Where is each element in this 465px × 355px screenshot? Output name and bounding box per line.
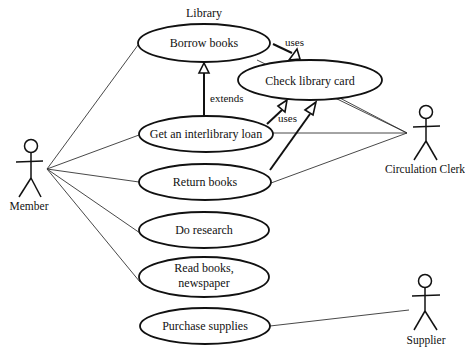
use-case-label: Purchase supplies: [162, 319, 248, 333]
use-case-label-line-1: Read books,: [174, 261, 233, 275]
use-case-check-library-card[interactable]: Check library card: [238, 60, 382, 100]
uses-label-1: uses: [285, 36, 304, 48]
use-case-label: Get an interlibrary loan: [150, 127, 262, 141]
use-case-label: Do research: [175, 223, 233, 237]
use-case-do-research[interactable]: Do research: [139, 212, 269, 248]
actor-label: Member: [10, 200, 49, 212]
use-case-return-books[interactable]: Return books: [139, 164, 271, 200]
use-case-purchase-supplies[interactable]: Purchase supplies: [140, 308, 270, 344]
use-case-borrow-books[interactable]: Borrow books: [138, 24, 270, 62]
actor-circulation-clerk[interactable]: Circulation Clerk: [385, 106, 465, 176]
stick-figure-icon: [412, 275, 440, 331]
stick-figure-icon: [16, 140, 43, 198]
use-case-diagram: Library uses uses extends: [0, 0, 465, 355]
stick-figure-icon: [413, 106, 440, 161]
use-case-read-books[interactable]: Read books, newspaper: [139, 257, 269, 297]
use-case-interlibrary-loan[interactable]: Get an interlibrary loan: [139, 116, 273, 152]
diagram-title: Library: [186, 6, 222, 20]
actor-label: Circulation Clerk: [385, 163, 465, 175]
extends-label: extends: [210, 92, 244, 104]
supplier-association: [270, 310, 409, 326]
member-associations: [47, 45, 140, 282]
actor-member[interactable]: Member: [10, 140, 49, 213]
use-case-label: Borrow books: [170, 36, 239, 50]
use-case-label: Check library card: [265, 74, 354, 88]
extends-dependency: [199, 63, 209, 118]
use-case-label: Return books: [173, 175, 238, 189]
actor-supplier[interactable]: Supplier: [407, 275, 446, 348]
actor-label: Supplier: [407, 334, 446, 347]
uses-label-2: uses: [278, 112, 297, 124]
use-case-label-line-2: newspaper: [178, 276, 229, 290]
